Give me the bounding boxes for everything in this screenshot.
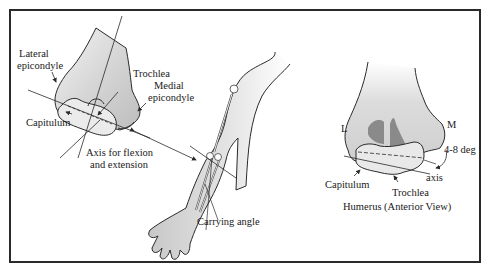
figure-caption: Humerus (Anterior View) bbox=[343, 201, 451, 213]
label-medial-epicondyle-line2: epicondyle bbox=[148, 92, 194, 104]
label-trochlea: Trochlea bbox=[133, 68, 170, 80]
label-capitulum: Capitulum bbox=[26, 117, 70, 129]
elbow-anatomy-illustration bbox=[0, 0, 487, 275]
label-lateral-epicondyle-line2: epicondyle bbox=[17, 60, 63, 72]
label-trochlea-right: Trochlea bbox=[392, 187, 429, 199]
label-carrying-angle: Carrying angle bbox=[197, 216, 260, 228]
label-lateral-side: L bbox=[341, 123, 347, 135]
label-axis-line1: Axis for flexion bbox=[86, 147, 153, 159]
label-axis-line2: and extension bbox=[90, 159, 148, 171]
right-humerus bbox=[344, 62, 447, 182]
label-medial-side: M bbox=[447, 119, 456, 131]
label-medial-epicondyle-line1: Medial bbox=[154, 80, 184, 92]
label-lateral-epicondyle-line1: Lateral bbox=[19, 48, 49, 60]
label-capitulum-right: Capitulum bbox=[325, 179, 369, 191]
label-axis: axis bbox=[426, 172, 443, 184]
label-angle-degrees: 4-8 deg bbox=[444, 144, 476, 156]
